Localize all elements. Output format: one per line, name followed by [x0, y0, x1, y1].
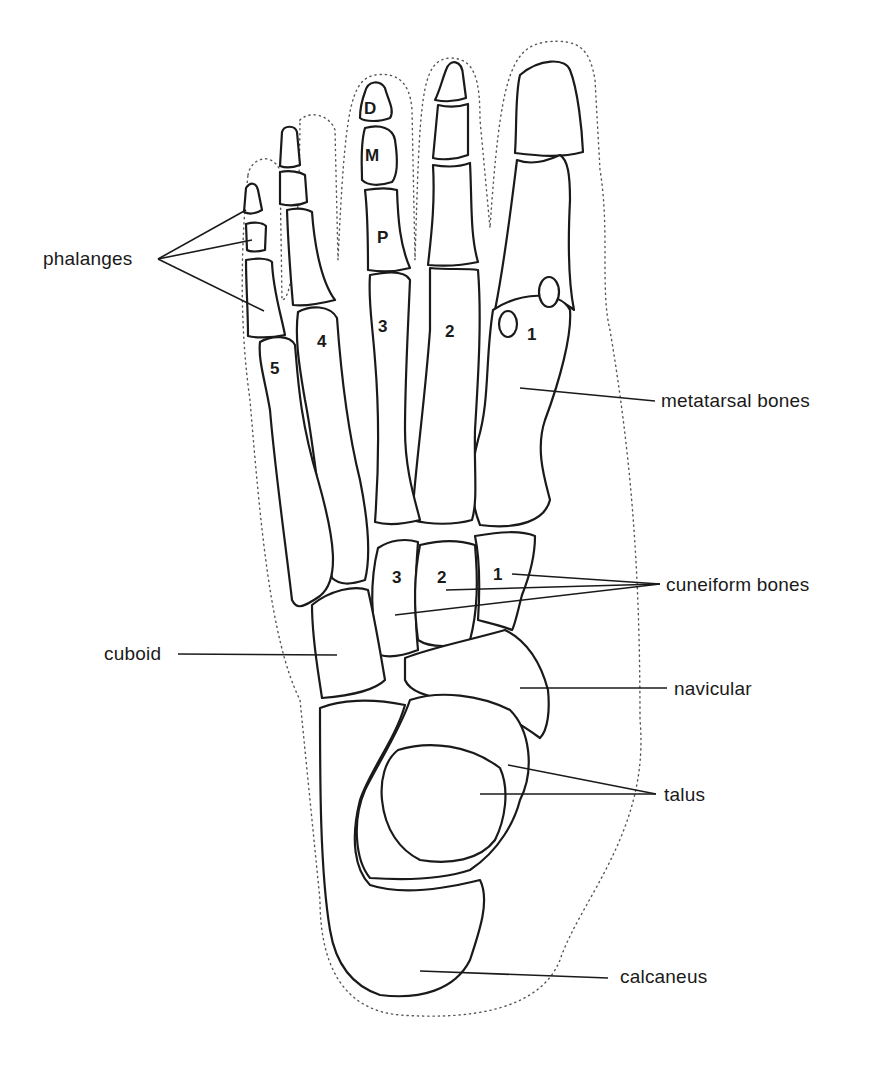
toe-2-proximal	[428, 163, 478, 266]
big-toe-proximal-phalanx	[495, 155, 574, 310]
cuneiform-number-3: 3	[392, 568, 401, 587]
metatarsal-number-5: 5	[270, 359, 279, 378]
cuneiform-3	[372, 540, 418, 656]
proximal-phalanx-letter: P	[377, 228, 388, 247]
toe-4-proximal	[287, 209, 335, 306]
big-toe-distal-phalanx	[515, 62, 583, 156]
toe-5-proximal	[246, 259, 285, 338]
foot-skeleton-illustration: D M P 1 2 3 4 5 1 2 3	[0, 0, 881, 1070]
cuneiform-number-1: 1	[493, 565, 502, 584]
toe-4-distal	[280, 127, 300, 168]
metatarsal-number-4: 4	[317, 332, 327, 351]
toe-5-distal	[244, 184, 262, 214]
toe-4-middle	[280, 171, 307, 205]
talus-head-outline	[382, 745, 506, 862]
metatarsal-1	[472, 296, 570, 527]
label-talus: talus	[664, 784, 705, 806]
metatarsal-3	[369, 273, 420, 524]
cuboid-leader-line	[178, 654, 337, 655]
distal-phalanx-letter: D	[364, 99, 376, 118]
metatarsal-number-2: 2	[445, 322, 454, 341]
label-phalanges: phalanges	[43, 248, 133, 270]
label-metatarsal-bones: metatarsal bones	[661, 390, 810, 412]
cuneiform-number-2: 2	[437, 568, 446, 587]
cuneiform-1	[475, 532, 535, 630]
toe-2-distal	[435, 62, 466, 101]
sesamoid-bone	[499, 311, 517, 337]
metatarsal-number-3: 3	[378, 317, 387, 336]
sesamoid-bone	[539, 277, 559, 307]
metatarsal-2	[412, 268, 480, 524]
label-calcaneus: calcaneus	[620, 966, 707, 988]
toe-2-middle	[433, 104, 468, 159]
toe-5-middle	[246, 223, 266, 252]
label-cuboid: cuboid	[104, 643, 161, 665]
label-navicular: navicular	[674, 678, 752, 700]
middle-phalanx-letter: M	[365, 146, 379, 165]
label-cuneiform-bones: cuneiform bones	[666, 574, 809, 596]
cuneiform-2	[415, 541, 477, 646]
metatarsal-number-1: 1	[527, 325, 536, 344]
